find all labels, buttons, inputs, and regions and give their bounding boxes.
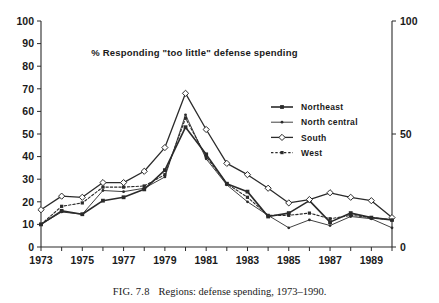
- series-marker-west: [225, 182, 228, 185]
- y-tick-label-left: 80: [22, 60, 34, 72]
- series-marker-north-central: [308, 218, 311, 221]
- series-marker-northeast: [328, 220, 332, 224]
- y-tick-label-left: 40: [22, 150, 34, 162]
- series-marker-north-central: [329, 224, 332, 227]
- series-marker-south: [224, 160, 230, 166]
- series-marker-west: [163, 173, 166, 176]
- series-marker-west: [143, 184, 146, 187]
- y-tick-label-left: 10: [22, 218, 34, 230]
- figure-caption-text: Regions: defense spending, 1973–1990.: [159, 286, 327, 297]
- x-tick-label: 1983: [236, 254, 260, 266]
- legend-label-northeast: Northeast: [301, 102, 343, 112]
- series-marker-north-central: [122, 190, 125, 193]
- series-marker-northeast: [246, 190, 250, 194]
- series-marker-west: [287, 214, 290, 217]
- y-tick-label-left: 70: [22, 83, 34, 95]
- series-marker-south: [348, 194, 354, 200]
- series-marker-north-central: [246, 200, 249, 203]
- series-marker-northeast: [122, 195, 126, 199]
- series-marker-west: [390, 218, 393, 221]
- series-marker-northeast: [101, 199, 105, 203]
- series-marker-west: [308, 212, 311, 215]
- y-tick-label-left: 50: [22, 128, 34, 140]
- figure-root: 0102030405060708090100050100197319751977…: [0, 0, 439, 303]
- x-tick-label: 1981: [194, 254, 218, 266]
- series-marker-west: [81, 201, 84, 204]
- series-line-northeast: [41, 127, 392, 224]
- figure-number: FIG. 7.8: [113, 286, 150, 297]
- series-marker-north-central: [391, 226, 394, 229]
- series-marker-northeast: [184, 125, 188, 129]
- y-tick-label-left: 60: [22, 105, 34, 117]
- legend-marker-west: [280, 151, 283, 154]
- series-marker-south: [327, 190, 333, 196]
- x-tick-label: 1987: [318, 254, 342, 266]
- chart-canvas: 0102030405060708090100050100197319751977…: [0, 0, 439, 303]
- x-tick-label: 1977: [112, 254, 136, 266]
- legend-marker-north-central: [281, 121, 284, 124]
- series-marker-north-central: [60, 211, 63, 214]
- series-marker-north-central: [287, 226, 290, 229]
- series-marker-west: [184, 117, 187, 120]
- figure-caption: FIG. 7.8Regions: defense spending, 1973–…: [0, 286, 439, 297]
- x-tick-label: 1989: [360, 254, 384, 266]
- y-tick-label-left: 30: [22, 173, 34, 185]
- series-line-north-central: [41, 115, 392, 228]
- series-marker-west: [39, 223, 42, 226]
- y-tick-label-left: 0: [28, 241, 34, 253]
- y-tick-label-left: 20: [22, 196, 34, 208]
- y-tick-label-right: 50: [400, 128, 412, 140]
- series-marker-west: [60, 205, 63, 208]
- series-marker-west: [101, 186, 104, 189]
- chart-title: % Responding "too little" defense spendi…: [91, 47, 297, 58]
- series-marker-north-central: [102, 189, 105, 192]
- x-tick-label: 1979: [153, 254, 177, 266]
- y-tick-label-right: 100: [400, 15, 418, 27]
- legend-label-west: West: [301, 148, 322, 158]
- x-tick-label: 1973: [29, 254, 53, 266]
- series-marker-west: [349, 214, 352, 217]
- series-marker-west: [122, 186, 125, 189]
- y-tick-label-left: 90: [22, 37, 34, 49]
- series-marker-west: [205, 155, 208, 158]
- series-marker-south: [120, 179, 126, 185]
- series-marker-west: [246, 196, 249, 199]
- legend-label-north-central: North central: [301, 117, 358, 127]
- series-marker-west: [328, 217, 331, 220]
- legend-marker-south: [279, 134, 285, 140]
- legend-marker-northeast: [280, 105, 284, 109]
- series-marker-south: [203, 126, 209, 132]
- legend-label-south: South: [301, 133, 327, 143]
- series-marker-north-central: [184, 113, 187, 116]
- x-tick-label: 1985: [277, 254, 301, 266]
- series-marker-west: [267, 214, 270, 217]
- y-tick-label-left: 100: [16, 15, 34, 27]
- series-marker-west: [370, 216, 373, 219]
- series-marker-north-central: [81, 213, 84, 216]
- x-tick-label: 1975: [71, 254, 95, 266]
- series-marker-south: [182, 90, 188, 96]
- y-tick-label-right: 0: [400, 241, 406, 253]
